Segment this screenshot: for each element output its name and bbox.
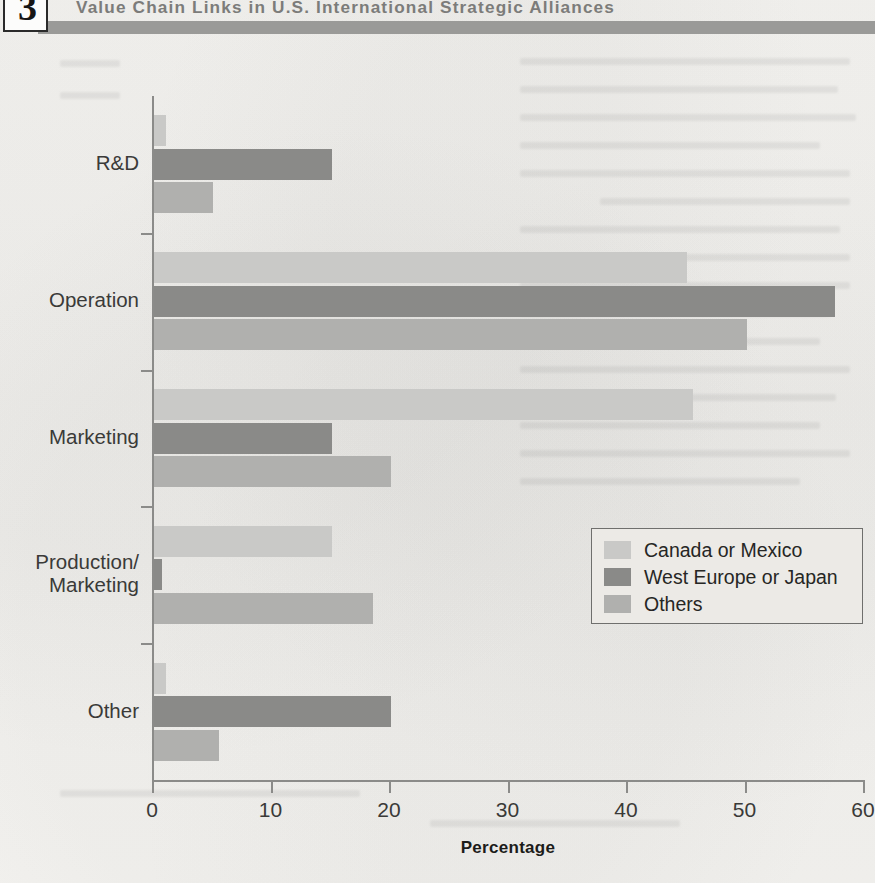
x-axis-tick <box>626 780 628 793</box>
bar <box>154 115 166 146</box>
x-axis-tick <box>745 780 747 793</box>
bar <box>154 319 747 350</box>
bar <box>154 389 693 420</box>
y-axis-tick <box>141 643 152 645</box>
header-rule <box>38 21 875 34</box>
y-axis-category-label: Marketing <box>49 425 139 448</box>
y-axis-category-label: Production/ Marketing <box>35 550 139 597</box>
bar <box>154 286 835 317</box>
x-axis-tick <box>152 780 154 793</box>
y-axis-tick <box>141 233 152 235</box>
legend-swatch-canada-or-mexico <box>604 541 631 559</box>
y-axis-category-label: R&D <box>96 151 139 174</box>
x-axis-title: Percentage <box>152 838 864 858</box>
bar <box>154 182 213 213</box>
bar <box>154 559 162 590</box>
bar <box>154 663 166 694</box>
y-axis-tick <box>141 506 152 508</box>
legend-item: Others <box>604 590 703 618</box>
bar <box>154 593 373 624</box>
page-header: Value Chain Links in U.S. International … <box>0 0 875 42</box>
x-axis-tick-label: 30 <box>478 798 538 822</box>
page-title: Value Chain Links in U.S. International … <box>76 0 615 18</box>
legend-item: West Europe or Japan <box>604 563 838 591</box>
x-axis-tick-label: 0 <box>122 798 182 822</box>
legend-label: Others <box>644 593 703 616</box>
legend-swatch-west-europe-or-japan <box>604 568 631 586</box>
y-axis-category-label: Other <box>88 699 139 722</box>
x-axis-tick <box>389 780 391 793</box>
bar <box>154 696 391 727</box>
legend-label: Canada or Mexico <box>644 539 802 562</box>
y-axis-tick <box>141 370 152 372</box>
x-axis-tick-label: 60 <box>833 798 875 822</box>
x-axis-tick <box>508 780 510 793</box>
chapter-number-box: 3 <box>3 0 48 32</box>
y-axis-category-label: Operation <box>49 288 139 311</box>
chapter-number: 3 <box>5 0 50 34</box>
x-axis-tick-label: 10 <box>241 798 301 822</box>
bar <box>154 252 687 283</box>
legend-label: West Europe or Japan <box>644 566 838 589</box>
x-axis-tick <box>271 780 273 793</box>
legend-swatch-others <box>604 595 631 613</box>
x-axis-tick-label: 50 <box>715 798 775 822</box>
x-axis-tick-label: 40 <box>596 798 656 822</box>
legend-item: Canada or Mexico <box>604 536 802 564</box>
bar <box>154 526 332 557</box>
x-axis-tick-label: 20 <box>359 798 419 822</box>
bar <box>154 456 391 487</box>
bar-chart: 0102030405060 R&DOperationMarketingProdu… <box>0 48 875 883</box>
bar <box>154 149 332 180</box>
x-axis-tick <box>863 780 865 793</box>
chart-legend: Canada or Mexico West Europe or Japan Ot… <box>591 528 863 624</box>
page-root: Value Chain Links in U.S. International … <box>0 0 875 883</box>
bar <box>154 730 219 761</box>
bar <box>154 423 332 454</box>
